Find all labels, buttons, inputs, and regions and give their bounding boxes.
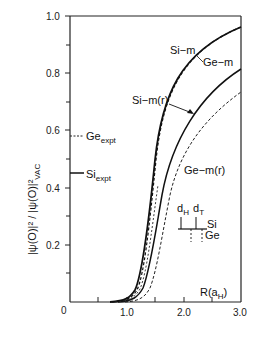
x-tick-label: 0 bbox=[61, 305, 67, 316]
svg-text:dH: dH bbox=[177, 202, 189, 217]
y-tick-label: 0.8 bbox=[46, 68, 60, 79]
ge-m-label: Ge−m bbox=[203, 56, 233, 68]
svg-text:Ge: Ge bbox=[205, 229, 220, 241]
y-tick-label: 0.6 bbox=[46, 125, 60, 136]
si-m-r-label: Si−m(r) bbox=[132, 94, 168, 106]
svg-text:dT: dT bbox=[193, 202, 204, 217]
y-tick-label: 1.0 bbox=[46, 11, 60, 22]
chart: 1.0 0.8 0.6 0.4 0.2 0 1.0 2.0 3.0 |ψ(O)|… bbox=[0, 0, 264, 341]
ge-expt-label: Geexpt bbox=[86, 130, 117, 145]
x-tick-label: 1.0 bbox=[120, 307, 134, 318]
x-tick-label: 3.0 bbox=[233, 307, 247, 318]
y-tick-label: 0.4 bbox=[46, 183, 60, 194]
si-m-label: Si−m bbox=[170, 44, 195, 56]
y-tick-label: 0.2 bbox=[46, 240, 60, 251]
y-ticks bbox=[65, 16, 70, 273]
ge-m-r-curve bbox=[125, 92, 241, 302]
x-tick-label: 2.0 bbox=[177, 307, 191, 318]
ge-m-r-label: Ge−m(r) bbox=[184, 164, 225, 176]
x-axis-label: R(aH) bbox=[200, 286, 227, 301]
si-expt-label: Siexpt bbox=[86, 168, 112, 183]
y-axis-label: |ψ(O)|² / |ψ(O)|²VAC bbox=[26, 164, 42, 255]
inset-diagram: dH dT Si Ge bbox=[177, 202, 220, 242]
